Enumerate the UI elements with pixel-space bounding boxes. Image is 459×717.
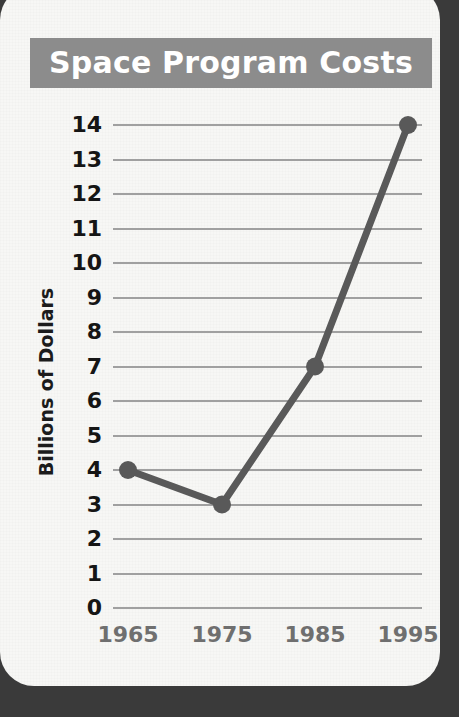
chart-card: Space Program Costs Billions of Dollars … [0,0,440,686]
series-markers [119,116,417,514]
series-plot [0,0,440,686]
data-point-marker [306,358,324,376]
data-point-marker [213,496,231,514]
series-line-space-program-costs [128,125,408,505]
data-point-marker [119,461,137,479]
data-point-marker [399,116,417,134]
plot-area: Billions of Dollars 14131211109876543210… [0,0,440,686]
